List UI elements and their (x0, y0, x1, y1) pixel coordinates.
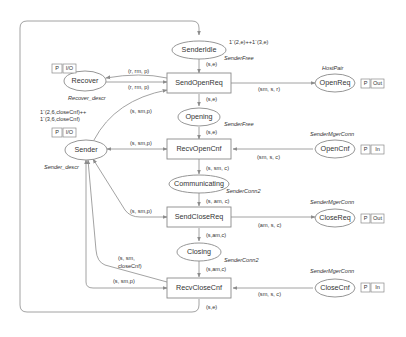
place-recover[interactable]: Recover (64, 71, 106, 91)
transition-send-close-req[interactable]: SendCloseReq (167, 207, 231, 227)
svg-text:P: P (364, 284, 368, 290)
place-open-cnf[interactable]: OpenCnf (315, 140, 355, 158)
svg-text:Recover: Recover (72, 76, 99, 85)
svg-text:Out: Out (373, 80, 382, 86)
place-open-req[interactable]: OpenReq (315, 74, 355, 92)
insc-recvclose-to-sender-2: closeCnf) (118, 263, 142, 269)
port-tag-close-cnf: P In (361, 283, 384, 292)
init-marking-sender-2: 1`(3,6,closeCnf) (40, 116, 80, 122)
type-recover: Recover_descr (68, 95, 107, 101)
arc-sendopen-to-recover (106, 75, 167, 78)
init-marking-sender-idle: 1`(2,e)++1`(3,e) (229, 39, 269, 45)
transition-recv-open-cnf[interactable]: RecvOpenCnf (167, 139, 231, 159)
svg-text:P: P (55, 129, 59, 135)
type-sender-idle: SenderFree (224, 55, 254, 61)
port-tag-close-req: P Out (361, 214, 384, 223)
svg-text:Communicating: Communicating (174, 179, 224, 188)
place-sender[interactable]: Sender (65, 140, 107, 160)
insc-recvclose-to-idle: (s,e) (206, 304, 217, 310)
svg-text:SendOpenReq: SendOpenReq (175, 78, 223, 87)
place-close-cnf[interactable]: CloseCnf (315, 279, 355, 297)
svg-text:Out: Out (373, 215, 382, 221)
type-open-req: HostPair (322, 65, 345, 71)
insc-comm-to-sendclose: (s, am, c) (206, 198, 229, 204)
petri-net-diagram: SenderIdle 1`(2,e)++1`(3,e) SenderFree R… (0, 0, 406, 337)
port-tag-open-cnf: P In (361, 145, 384, 154)
transition-recv-close-cnf[interactable]: RecvCloseCnf (167, 278, 231, 298)
insc-sender-to-recvclose: (s, sm,p) (113, 278, 135, 284)
svg-text:CloseReq: CloseReq (319, 213, 351, 222)
svg-text:P: P (364, 215, 368, 221)
insc-sender-to-sendopen: (s, sm,p) (130, 108, 152, 114)
transition-send-open-req[interactable]: SendOpenReq (167, 73, 231, 93)
insc-idle-to-sendopen: (s,e) (206, 61, 217, 67)
svg-text:Sender: Sender (74, 145, 98, 154)
port-tag-recover: P I/O (52, 64, 76, 73)
insc-opening-to-recvopen: (s,e) (206, 129, 217, 135)
svg-text:In: In (375, 146, 380, 152)
type-close-cnf: SenderMgerConn (310, 268, 354, 274)
svg-text:RecvCloseCnf: RecvCloseCnf (176, 283, 222, 292)
place-sender-idle[interactable]: SenderIdle (172, 41, 226, 59)
svg-text:I/O: I/O (66, 65, 74, 71)
place-closing[interactable]: Closing (177, 243, 221, 261)
insc-opencnf-to-recvopen: (sm, s, c) (257, 154, 280, 160)
svg-text:I/O: I/O (66, 129, 74, 135)
svg-text:OpenCnf: OpenCnf (321, 144, 350, 153)
insc-recvopen-to-comm: (s, sm, c) (206, 165, 229, 171)
type-close-req: SenderMgerConn (310, 199, 354, 205)
insc-sender-recvopen: (s, sm,p) (130, 140, 152, 146)
insc-sendopen-to-opening: (s,e) (206, 96, 217, 102)
type-open-cnf: SenderMgerConn (310, 131, 354, 137)
insc-sender-sendclose: (s, sm,p) (130, 208, 152, 214)
type-sender: Sender_descr (44, 164, 80, 170)
place-opening[interactable]: Opening (178, 108, 220, 126)
insc-recvclose-to-sender-1: (s, sm, (118, 255, 135, 261)
svg-text:SendCloseReq: SendCloseReq (175, 212, 223, 221)
port-tag-sender: P I/O (52, 128, 76, 137)
type-communicating: SenderConn2 (226, 188, 261, 194)
init-marking-sender-1: 1`(2,6,closeCnf)++ (40, 109, 86, 115)
svg-text:SenderIdle: SenderIdle (182, 45, 217, 54)
insc-closing-to-recvclose: (s,am,c) (206, 266, 226, 272)
insc-sendclose-to-closereq: (am, s, c) (258, 222, 281, 228)
type-opening: SenderFree (224, 121, 254, 127)
insc-closecnf-to-recvclose: (sm, s, c) (258, 291, 281, 297)
svg-text:Closing: Closing (187, 247, 211, 256)
insc-sendopen-to-openreq: (sm, s, r) (258, 86, 280, 92)
svg-text:P: P (364, 146, 368, 152)
place-close-req[interactable]: CloseReq (315, 209, 355, 227)
svg-text:P: P (364, 80, 368, 86)
svg-text:In: In (375, 284, 380, 290)
port-tag-open-req: P Out (361, 79, 384, 88)
insc-recover-to-sendopen: (r, rm, p) (128, 84, 149, 90)
place-communicating[interactable]: Communicating (169, 175, 229, 193)
insc-sendclose-to-closing: (s,am,c) (206, 232, 226, 238)
type-closing: SenderConn2 (224, 257, 259, 263)
svg-text:CloseCnf: CloseCnf (320, 283, 350, 292)
svg-text:RecvOpenCnf: RecvOpenCnf (176, 144, 221, 153)
svg-text:OpenReq: OpenReq (320, 78, 351, 87)
insc-sendopen-to-recover: (r, rm, p) (128, 68, 149, 74)
svg-text:Opening: Opening (185, 112, 212, 121)
svg-text:P: P (55, 65, 59, 71)
